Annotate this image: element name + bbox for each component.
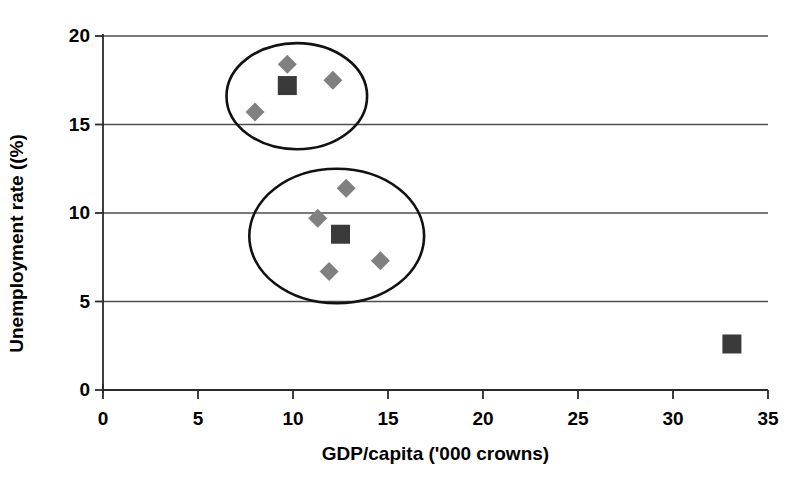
plot-canvas — [0, 0, 806, 487]
x-tick-label-25: 25 — [567, 408, 588, 430]
x-axis-title: GDP/capita ('000 crowns) — [103, 443, 768, 465]
x-tick-label-10: 10 — [282, 408, 303, 430]
data-point-diamond — [320, 262, 339, 281]
tick-marks-group — [95, 36, 768, 399]
data-point-square — [722, 334, 741, 353]
x-tick-label-5: 5 — [193, 408, 204, 430]
data-point-diamond — [308, 209, 327, 228]
y-tick-label-10: 10 — [40, 202, 90, 224]
data-point-diamond — [371, 251, 390, 270]
data-point-square — [331, 225, 350, 244]
y-tick-label-5: 5 — [40, 291, 90, 313]
y-axis-title: Unemployment rate ((%) — [0, 0, 34, 487]
data-point-diamond — [246, 103, 265, 122]
x-tick-label-35: 35 — [757, 408, 778, 430]
upper-cluster-ellipse — [226, 43, 367, 149]
y-tick-label-15: 15 — [40, 114, 90, 136]
data-point-diamond — [323, 71, 342, 90]
x-tick-label-20: 20 — [472, 408, 493, 430]
y-tick-label-20: 20 — [40, 25, 90, 47]
gridlines-group — [103, 36, 768, 302]
data-markers-group — [246, 55, 742, 354]
x-tick-label-15: 15 — [377, 408, 398, 430]
data-point-square — [278, 76, 297, 95]
x-tick-label-0: 0 — [98, 408, 109, 430]
data-point-diamond — [337, 179, 356, 198]
x-tick-label-30: 30 — [662, 408, 683, 430]
data-point-diamond — [278, 55, 297, 74]
scatter-plot-figure: 05101520 05101520253035 GDP/capita ('000… — [0, 0, 806, 487]
y-tick-label-0: 0 — [40, 379, 90, 401]
